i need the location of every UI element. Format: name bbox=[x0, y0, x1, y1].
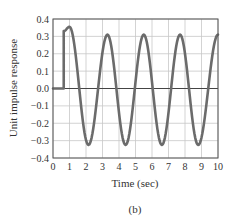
y-tick-label: 0.1 bbox=[37, 66, 50, 77]
x-tick-label: 5 bbox=[133, 161, 138, 172]
impulse-response-chart: 0.40.30.20.10.0−0.1−0.2−0.3−0.4 01234567… bbox=[0, 0, 233, 219]
y-axis-tick-labels: 0.40.30.20.10.0−0.1−0.2−0.3−0.4 bbox=[31, 14, 49, 164]
y-tick-label: 0.2 bbox=[37, 48, 50, 59]
x-tick-label: 10 bbox=[213, 161, 223, 172]
x-axis-label: Time (sec) bbox=[112, 177, 159, 190]
figure-label: (b) bbox=[129, 203, 142, 216]
y-tick-label: 0.4 bbox=[37, 14, 50, 25]
y-tick-label: −0.1 bbox=[31, 100, 49, 111]
x-tick-label: 4 bbox=[117, 161, 122, 172]
x-tick-label: 8 bbox=[183, 161, 188, 172]
x-tick-label: 3 bbox=[100, 161, 105, 172]
y-tick-label: 0.0 bbox=[37, 83, 50, 94]
x-tick-label: 6 bbox=[150, 161, 155, 172]
y-tick-label: −0.2 bbox=[31, 118, 49, 129]
x-tick-label: 0 bbox=[51, 161, 56, 172]
y-axis-label: Unit impulse response bbox=[7, 39, 19, 137]
x-tick-label: 7 bbox=[166, 161, 171, 172]
y-tick-label: −0.4 bbox=[31, 153, 49, 164]
y-tick-label: −0.3 bbox=[31, 135, 49, 146]
y-tick-label: 0.3 bbox=[37, 31, 50, 42]
x-axis-tick-labels: 012345678910 bbox=[51, 161, 224, 172]
x-tick-label: 9 bbox=[199, 161, 204, 172]
x-tick-label: 2 bbox=[84, 161, 89, 172]
x-tick-label: 1 bbox=[67, 161, 72, 172]
